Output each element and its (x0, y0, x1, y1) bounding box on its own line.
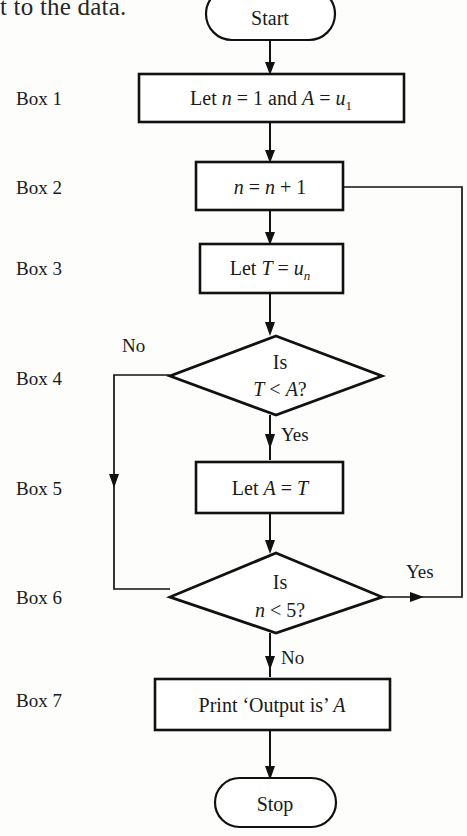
node-box7-label: Print ‘Output is’ A (199, 694, 347, 717)
label-box-2: Box 2 (16, 177, 62, 198)
arrowhead-box4-no (109, 474, 119, 488)
arrowhead-box4-yes (265, 434, 275, 449)
node-box6 (170, 553, 382, 633)
arrowhead-box3-box4 (265, 322, 275, 336)
edge-box6-yes (343, 187, 462, 597)
node-box2-label: n = n + 1 (234, 176, 307, 198)
arrowhead-box6-yes (410, 592, 424, 602)
label-box-4: Box 4 (16, 368, 62, 389)
label-box-5: Box 5 (16, 478, 62, 499)
node-start-label: Start (251, 7, 289, 29)
node-box4-label-line1: Is (273, 351, 288, 373)
flowchart-svg: Box 1 Box 2 Box 3 Box 4 Box 5 Box 6 Box … (0, 0, 467, 836)
node-box6-label-line1: Is (273, 571, 288, 593)
label-box-6: Box 6 (16, 587, 62, 608)
label-box-3: Box 3 (16, 258, 62, 279)
node-box4 (170, 336, 382, 415)
node-box5-label: Let A = T (232, 477, 310, 499)
edge-label-no-box6: No (281, 647, 304, 668)
node-box6-label-line2: n < 5? (255, 599, 305, 621)
node-box4-label-line2: T < A? (253, 378, 307, 400)
arrowhead-box6-no (265, 656, 275, 670)
edge-box4-no (114, 375, 170, 589)
node-stop-label: Stop (257, 793, 294, 816)
edge-label-yes-box6: Yes (406, 561, 434, 582)
label-box-1: Box 1 (16, 88, 62, 109)
label-box-7: Box 7 (16, 690, 62, 711)
edge-label-yes-box4: Yes (281, 424, 309, 445)
flowchart-page: t to the data. Box 1 Box 2 Box 3 Box 4 B… (0, 0, 467, 836)
edge-label-no-box4: No (122, 335, 145, 356)
arrowhead-box5-box6 (265, 540, 275, 554)
